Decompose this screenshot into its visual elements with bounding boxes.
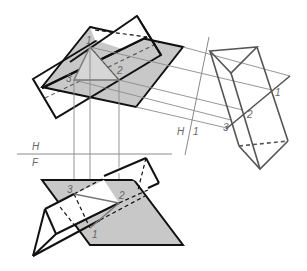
aux-plane-edge-view: [226, 76, 290, 129]
front-point-3-label: 3: [67, 184, 73, 195]
svg-text:1: 1: [193, 126, 199, 137]
aux-point-1-label: 1: [275, 87, 281, 98]
aux-point-2-label: 2: [246, 109, 253, 120]
svg-text:F: F: [32, 157, 39, 168]
aux-prism-top-face: [210, 47, 257, 73]
front-point-1-label: 1: [92, 229, 98, 240]
svg-text:H: H: [177, 126, 185, 137]
front-point-2-label: 2: [118, 190, 125, 201]
top-point-3-label: 3: [66, 73, 72, 84]
aux-point-3-label: 3: [223, 122, 229, 133]
aux-prism-edge: [257, 47, 288, 141]
fold-line-h-1: H 1: [177, 37, 209, 155]
aux-prism-hidden-edge: [239, 141, 288, 146]
orthographic-drawing: 1 2 3 H 1 1 2 3 H F: [0, 0, 307, 271]
top-point-2-label: 2: [116, 65, 123, 76]
front-view: 3 2 1: [33, 158, 183, 256]
svg-text:H: H: [32, 141, 40, 152]
top-point-1-label: 1: [86, 35, 92, 46]
top-view: 1 2 3: [33, 16, 183, 118]
